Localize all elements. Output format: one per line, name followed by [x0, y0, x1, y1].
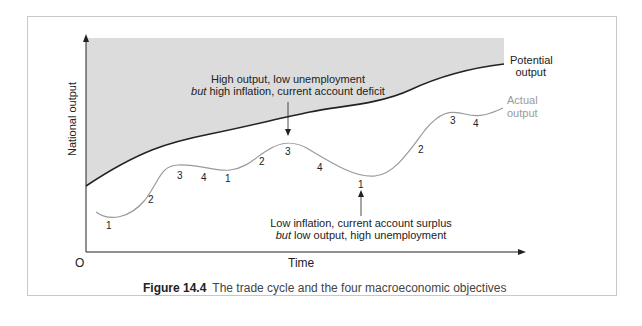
bottom-annotation-line2: but low output, high unemployment [276, 229, 447, 241]
top-annotation-line1: High output, low unemployment [211, 73, 365, 85]
phase-label: 4 [317, 162, 323, 173]
phase-label: 4 [473, 118, 479, 129]
phase-label: 3 [177, 170, 183, 181]
phase-label: 1 [358, 179, 364, 190]
phase-label: 1 [225, 173, 231, 184]
trade-cycle-diagram: National output O Time Potential output … [0, 0, 642, 326]
caption-text: The trade cycle and the four macroeconom… [212, 281, 506, 295]
top-annotation-line2: but high inflation, current account defi… [191, 85, 385, 97]
y-axis-label: National output [66, 82, 78, 156]
phase-label: 2 [259, 156, 265, 167]
actual-output-label: Actual [507, 94, 538, 106]
arrow-down-icon [285, 129, 291, 136]
x-axis-label: Time [288, 256, 315, 270]
phase-label: 2 [418, 144, 424, 155]
phase-label: 1 [106, 220, 112, 231]
x-axis-arrow-icon [518, 249, 526, 255]
phase-label: 3 [285, 146, 291, 157]
phase-label: 4 [201, 172, 207, 183]
phase-label: 3 [450, 115, 456, 126]
phase-label: 2 [148, 194, 154, 205]
arrow-up-icon [358, 190, 364, 197]
bottom-annotation-line1: Low inflation, current account surplus [270, 217, 452, 229]
figure-caption: Figure 14.4The trade cycle and the four … [143, 281, 507, 295]
origin-label: O [75, 256, 84, 270]
caption-label: Figure 14.4 [143, 281, 207, 295]
potential-output-label-2: output [515, 66, 546, 78]
shaded-area [86, 38, 504, 186]
potential-output-label: Potential [510, 54, 553, 66]
actual-output-label-2: output [507, 107, 538, 119]
